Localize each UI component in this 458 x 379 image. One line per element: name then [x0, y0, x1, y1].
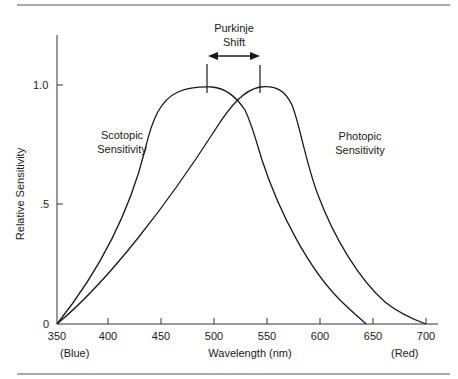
x-axis-label: Wavelength (nm)	[190, 347, 310, 360]
scotopic-label-line2: Sensitivity	[92, 143, 152, 156]
x-tick-label-550: 550	[252, 330, 282, 343]
x-tick-label-600: 600	[305, 330, 335, 343]
scotopic-curve	[57, 87, 366, 324]
photopic-label-line1: Photopic	[330, 130, 390, 143]
purkinje-label-line2: Shift	[208, 36, 260, 49]
y-tick-label-05: .5	[40, 198, 49, 211]
x-tick-label-650: 650	[358, 330, 388, 343]
x-ticks	[108, 318, 426, 324]
x-tick-label-500: 500	[199, 330, 229, 343]
photopic-curve	[57, 87, 426, 324]
photopic-label-line2: Sensitivity	[330, 144, 390, 157]
blue-end-label: (Blue)	[60, 347, 89, 360]
x-tick-label-450: 450	[146, 330, 176, 343]
x-tick-label-350: 350	[42, 330, 72, 343]
y-axis-label: Relative Sensitivity	[14, 144, 26, 244]
x-tick-label-700: 700	[411, 330, 441, 343]
x-tick-label-400: 400	[93, 330, 123, 343]
chart-canvas	[0, 0, 458, 379]
red-end-label: (Red)	[391, 347, 419, 360]
scotopic-label-line1: Scotopic	[92, 129, 152, 142]
y-tick-label-1: 1.0	[33, 79, 48, 92]
purkinje-label-line1: Purkinje	[208, 22, 260, 35]
purkinje-arrow	[208, 52, 260, 60]
